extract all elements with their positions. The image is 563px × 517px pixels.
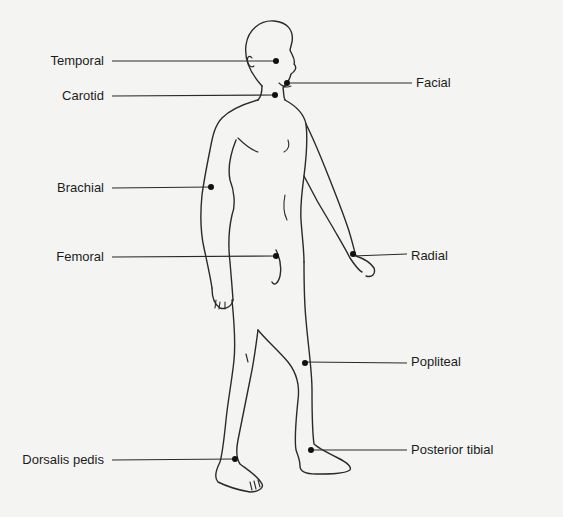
pulse-dot-femoral [273,253,279,259]
label-femoral: Femoral [56,250,104,264]
leader-lines [112,58,412,462]
leader-line-carotid [112,95,275,96]
label-facial: Facial [416,76,451,90]
pulse-dot-brachial [208,184,214,190]
label-temporal: Temporal [51,54,104,68]
leader-line-popliteal [305,362,407,363]
leader-line-radial [353,254,407,256]
pulse-dot-carotid [272,92,278,98]
leader-line-femoral [112,256,276,257]
pulse-dot-radial [350,251,356,257]
label-carotid: Carotid [62,89,104,103]
pulse-dot-posterior-tibial [308,447,314,453]
pulse-dot-dorsalis-pedis [232,456,238,462]
leader-line-dorsalis-pedis [112,459,235,460]
pulse-points-diagram: Temporal Carotid Brachial Femoral Dorsal… [0,0,563,517]
label-dorsalis-pedis: Dorsalis pedis [22,453,104,467]
label-radial: Radial [411,249,448,263]
label-popliteal: Popliteal [411,355,461,369]
pulse-dot-facial [284,80,290,86]
pulse-dot-popliteal [302,360,308,366]
label-posterior-tibial: Posterior tibial [411,443,493,457]
label-brachial: Brachial [57,181,104,195]
leader-line-brachial [112,187,211,188]
pulse-dot-temporal [273,58,279,64]
